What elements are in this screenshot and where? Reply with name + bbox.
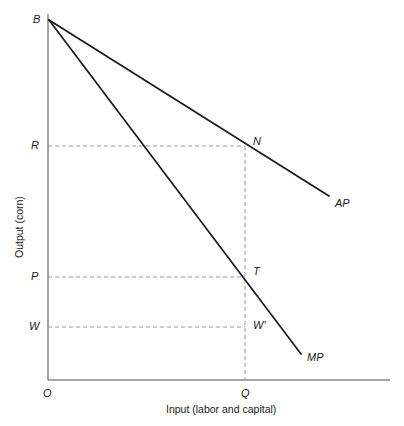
y-tick-label-R: R [31, 140, 39, 151]
point-label-N: N [253, 136, 261, 147]
y-tick-label-P: P [31, 271, 38, 282]
curve-marginal-product [49, 20, 301, 354]
x-axis-title: Input (labor and capital) [166, 404, 276, 415]
y-tick-label-W: W [29, 321, 39, 332]
y-axis-title: Output (corn) [14, 196, 25, 258]
point-label-T: T [253, 266, 260, 277]
x-tick-label-O: O [43, 388, 52, 399]
curve-average-product [49, 20, 329, 196]
point-label-W-prime: W′ [253, 320, 265, 331]
economics-production-chart: B N T W′ R P W O Q AP MP Output (corn) I… [0, 0, 404, 426]
x-tick-label-Q: Q [241, 388, 250, 399]
chart-canvas [0, 0, 404, 426]
point-label-B: B [33, 14, 40, 25]
curve-label-MP: MP [307, 352, 324, 363]
curve-label-AP: AP [335, 198, 350, 209]
